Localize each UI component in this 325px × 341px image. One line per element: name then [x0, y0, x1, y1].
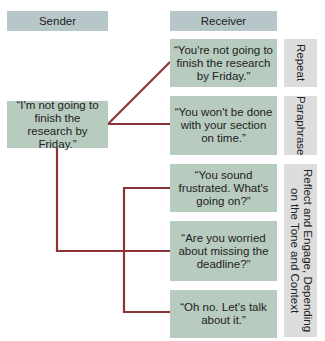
category-paraphrase: Paraphrase: [284, 96, 317, 155]
connector-reflect-main: [57, 148, 170, 251]
response-repeat: “You're not going to finish the research…: [170, 39, 277, 87]
sender-header: Sender: [7, 11, 108, 31]
receiver-header: Receiver: [170, 11, 277, 31]
connector-repeat: [108, 62, 170, 124]
category-reflect-engage: Reflect and Engage, Depending on the Ton…: [284, 164, 317, 337]
response-reflect-3: “Oh no. Let's talk about it.”: [170, 290, 277, 338]
category-repeat: Repeat: [284, 39, 317, 87]
category-reflect-engage-text: Reflect and Engage, Depending on the Ton…: [288, 169, 314, 332]
response-reflect-1: “You sound frustrated. What's going on?”: [170, 164, 277, 212]
response-paraphrase: “You won't be done with your section on …: [170, 96, 277, 155]
category-paraphrase-text: Paraphrase: [294, 96, 307, 155]
category-repeat-text: Repeat: [294, 44, 307, 81]
sender-statement-box: “I'm not going to finish the research by…: [7, 101, 108, 148]
response-reflect-2: “Are you worried about missing the deadl…: [170, 221, 277, 281]
